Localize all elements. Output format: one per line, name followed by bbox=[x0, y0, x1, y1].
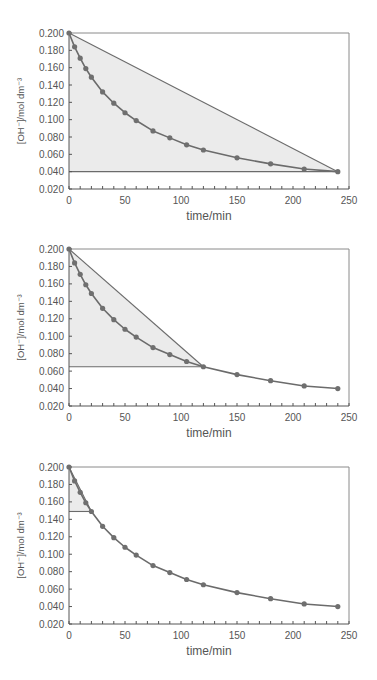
data-point bbox=[234, 590, 239, 595]
data-point bbox=[335, 386, 340, 391]
chart-1-svg: 0.2000.1800.1600.1400.1200.1000.0800.060… bbox=[0, 0, 377, 228]
y-tick-label: 0.160 bbox=[39, 496, 64, 507]
x-tick-label: 100 bbox=[173, 630, 190, 641]
data-point bbox=[201, 364, 206, 369]
y-tick-label: 0.080 bbox=[39, 132, 64, 143]
x-tick-label: 50 bbox=[119, 630, 131, 641]
data-point bbox=[201, 582, 206, 587]
data-point bbox=[111, 101, 116, 106]
data-point bbox=[268, 161, 273, 166]
data-point bbox=[122, 110, 127, 115]
data-point bbox=[167, 352, 172, 357]
data-point bbox=[335, 169, 340, 174]
data-point bbox=[83, 282, 88, 287]
data-point bbox=[66, 464, 71, 469]
data-point bbox=[184, 577, 189, 582]
data-point bbox=[150, 128, 155, 133]
y-tick-label: 0.180 bbox=[39, 45, 64, 56]
x-tick-label: 250 bbox=[341, 195, 358, 206]
data-point bbox=[184, 142, 189, 147]
chart-2-wrap: 0.2000.1800.1600.1400.1200.1000.0800.060… bbox=[0, 216, 377, 444]
x-tick-label: 200 bbox=[285, 195, 302, 206]
chart-3-wrap: 0.2000.1800.1600.1400.1200.1000.0800.060… bbox=[0, 434, 377, 680]
x-tick-label: 150 bbox=[229, 630, 246, 641]
data-point bbox=[134, 334, 139, 339]
y-tick-label: 0.120 bbox=[39, 531, 64, 542]
data-point bbox=[234, 372, 239, 377]
x-tick-label: 150 bbox=[229, 195, 246, 206]
data-point bbox=[167, 135, 172, 140]
y-tick-label: 0.200 bbox=[39, 462, 64, 473]
x-tick-label: 200 bbox=[285, 630, 302, 641]
y-tick-label: 0.040 bbox=[39, 601, 64, 612]
y-tick-label: 0.200 bbox=[39, 244, 64, 255]
y-tick-label: 0.160 bbox=[39, 62, 64, 73]
data-point bbox=[268, 596, 273, 601]
data-point bbox=[302, 601, 307, 606]
data-point bbox=[302, 166, 307, 171]
y-axis-label: [OH⁻]/mol dm⁻³ bbox=[15, 78, 26, 144]
x-tick-label: 50 bbox=[119, 195, 131, 206]
y-tick-label: 0.140 bbox=[39, 296, 64, 307]
chart-3-svg: 0.2000.1800.1600.1400.1200.1000.0800.060… bbox=[0, 434, 377, 680]
data-point bbox=[184, 359, 189, 364]
data-point bbox=[83, 500, 88, 505]
x-axis-label: time/min bbox=[186, 644, 231, 658]
y-tick-label: 0.140 bbox=[39, 80, 64, 91]
data-point bbox=[122, 545, 127, 550]
y-tick-label: 0.040 bbox=[39, 383, 64, 394]
x-tick-label: 0 bbox=[66, 630, 72, 641]
data-point bbox=[167, 570, 172, 575]
data-point bbox=[150, 345, 155, 350]
data-point bbox=[78, 490, 83, 495]
y-axis-label: [OH⁻]/mol dm⁻³ bbox=[15, 294, 26, 360]
x-tick-label: 100 bbox=[173, 412, 190, 423]
chart-2-svg: 0.2000.1800.1600.1400.1200.1000.0800.060… bbox=[0, 216, 377, 444]
data-point bbox=[268, 378, 273, 383]
data-point bbox=[335, 604, 340, 609]
x-tick-label: 250 bbox=[341, 630, 358, 641]
data-point bbox=[72, 44, 77, 49]
data-point bbox=[89, 509, 94, 514]
data-point bbox=[78, 56, 83, 61]
data-point bbox=[72, 260, 77, 265]
data-point bbox=[89, 75, 94, 80]
x-tick-label: 0 bbox=[66, 412, 72, 423]
data-point bbox=[89, 291, 94, 296]
data-point bbox=[134, 118, 139, 123]
x-tick-label: 150 bbox=[229, 412, 246, 423]
data-point bbox=[234, 155, 239, 160]
y-tick-label: 0.020 bbox=[39, 184, 64, 195]
data-point bbox=[72, 478, 77, 483]
data-point bbox=[111, 535, 116, 540]
data-point bbox=[100, 524, 105, 529]
data-point bbox=[201, 147, 206, 152]
data-point bbox=[100, 306, 105, 311]
data-point bbox=[66, 30, 71, 35]
y-tick-label: 0.100 bbox=[39, 114, 64, 125]
y-axis-label: [OH⁻]/mol dm⁻³ bbox=[15, 512, 26, 578]
x-tick-label: 250 bbox=[341, 412, 358, 423]
x-tick-label: 200 bbox=[285, 412, 302, 423]
y-tick-label: 0.020 bbox=[39, 619, 64, 630]
y-tick-label: 0.060 bbox=[39, 366, 64, 377]
data-point bbox=[302, 383, 307, 388]
data-point bbox=[78, 272, 83, 277]
y-tick-label: 0.060 bbox=[39, 584, 64, 595]
data-point bbox=[134, 552, 139, 557]
y-tick-label: 0.160 bbox=[39, 278, 64, 289]
y-tick-label: 0.180 bbox=[39, 261, 64, 272]
x-tick-label: 0 bbox=[66, 195, 72, 206]
y-tick-label: 0.100 bbox=[39, 331, 64, 342]
y-tick-label: 0.120 bbox=[39, 97, 64, 108]
data-point bbox=[66, 246, 71, 251]
y-tick-label: 0.080 bbox=[39, 348, 64, 359]
data-point bbox=[100, 89, 105, 94]
y-tick-label: 0.060 bbox=[39, 149, 64, 160]
y-tick-label: 0.040 bbox=[39, 166, 64, 177]
y-tick-label: 0.100 bbox=[39, 549, 64, 560]
chart-1: 0.2000.1800.1600.1400.1200.1000.0800.060… bbox=[0, 0, 377, 228]
y-tick-label: 0.120 bbox=[39, 313, 64, 324]
y-tick-label: 0.140 bbox=[39, 514, 64, 525]
x-tick-label: 50 bbox=[119, 412, 131, 423]
